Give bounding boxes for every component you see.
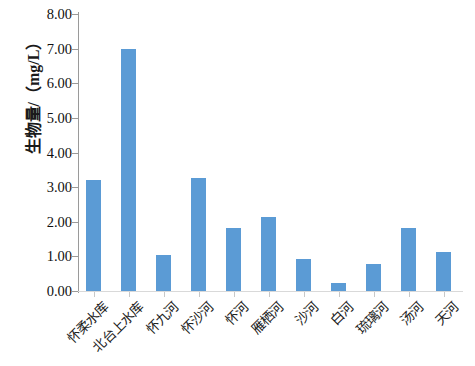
y-axis-tick-label: 1.00	[26, 249, 72, 264]
bar	[261, 217, 276, 291]
bar	[366, 264, 381, 291]
y-axis-tick-label: 5.00	[26, 111, 72, 126]
bar	[86, 180, 101, 291]
biomass-bar-chart: 生物量/（mg/L） 8.007.006.005.004.003.002.001…	[0, 0, 475, 366]
bar	[331, 283, 346, 291]
y-axis-tick-label: 4.00	[26, 146, 72, 161]
y-axis-tick-mark	[71, 83, 78, 84]
x-axis-tick-labels: 怀柔水库北台上水库怀九河怀沙河怀河雁栖河沙河白河琉璃河汤河天河	[0, 296, 475, 366]
bar	[401, 228, 416, 291]
y-axis-tick-label: 8.00	[26, 7, 72, 22]
y-axis-tick-mark	[71, 49, 78, 50]
y-axis-tick-mark	[71, 256, 78, 257]
y-axis-tick-label: 6.00	[26, 76, 72, 91]
y-axis-tick-labels: 8.007.006.005.004.003.002.001.000.00	[20, 0, 72, 300]
y-axis-tick-label: 7.00	[26, 42, 72, 57]
y-axis-tick-mark	[71, 291, 78, 292]
x-axis-line	[78, 291, 463, 292]
y-axis-tick-mark	[71, 153, 78, 154]
y-axis-tick-label: 3.00	[26, 180, 72, 195]
bar	[191, 178, 206, 291]
bar	[156, 255, 171, 291]
y-axis-tick-mark	[71, 222, 78, 223]
bar	[121, 49, 136, 291]
y-axis-tick-mark	[71, 187, 78, 188]
y-axis-tick-mark	[71, 14, 78, 15]
bars-layer	[78, 14, 463, 291]
bar	[296, 259, 311, 291]
bar	[436, 252, 451, 291]
y-axis-tick-label: 2.00	[26, 215, 72, 230]
bar	[226, 228, 241, 291]
y-axis-tick-mark	[71, 118, 78, 119]
